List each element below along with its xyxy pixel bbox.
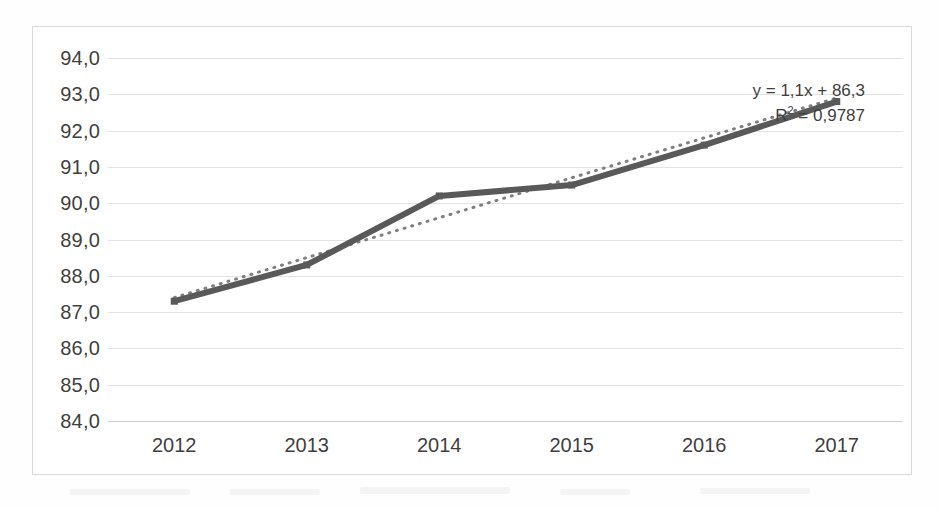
trendline [174,98,837,298]
x-axis-tick-label: 2013 [285,434,330,457]
plot-area [108,58,903,421]
scan-artifact [560,489,630,495]
x-axis-tick-label: 2012 [152,434,197,457]
y-axis-tick-label: 91,0 [60,155,100,178]
x-axis: 201220132014201520162017 [108,432,903,462]
y-axis-tick-label: 86,0 [60,337,100,360]
data-point-marker [833,98,840,105]
y-axis-tick-label: 89,0 [60,228,100,251]
y-axis-tick-label: 94,0 [60,47,100,70]
series-canvas [108,58,903,421]
data-point-marker [701,142,708,149]
x-axis-tick-label: 2014 [417,434,462,457]
y-axis-tick-label: 84,0 [60,410,100,433]
scan-artifact [70,489,190,495]
y-axis-tick-label: 90,0 [60,192,100,215]
data-point-marker [171,298,178,305]
x-axis-tick-label: 2017 [815,434,860,457]
data-point-marker [436,192,443,199]
scan-artifact [360,487,510,494]
y-axis: 94,093,092,091,090,089,088,087,086,085,0… [38,58,100,421]
x-axis-line [108,421,903,422]
data-point-marker [303,261,310,268]
x-axis-tick-label: 2015 [550,434,595,457]
data-point-marker [568,182,575,189]
scan-artifact [700,488,810,494]
y-axis-tick-label: 88,0 [60,264,100,287]
y-axis-tick-label: 85,0 [60,373,100,396]
y-axis-tick-label: 92,0 [60,119,100,142]
x-axis-tick-label: 2016 [682,434,727,457]
y-axis-tick-label: 93,0 [60,83,100,106]
scan-artifact [230,489,320,495]
data-series-line [174,102,837,302]
y-axis-tick-label: 87,0 [60,301,100,324]
